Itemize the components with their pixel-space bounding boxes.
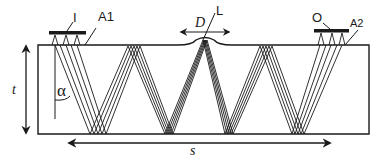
ultrasonic-ray-diagram: I A1 O A2 D L t α s xyxy=(0,0,389,161)
label-lens-focus: L xyxy=(216,3,223,18)
leader-a1 xyxy=(85,28,96,45)
label-span: s xyxy=(190,143,196,158)
label-input-transducer: I xyxy=(73,10,77,25)
label-output-transducer: O xyxy=(312,10,322,25)
input-transducer xyxy=(49,22,86,45)
slab-outline xyxy=(38,38,369,135)
ray-bundle-right xyxy=(203,40,342,134)
label-a2: A2 xyxy=(350,17,363,29)
ray-bundle-left xyxy=(55,40,207,134)
output-transducer xyxy=(314,23,349,45)
label-defect-width: D xyxy=(194,15,205,30)
label-angle: α xyxy=(57,81,66,100)
label-a1: A1 xyxy=(98,9,114,24)
label-thickness: t xyxy=(12,82,17,97)
